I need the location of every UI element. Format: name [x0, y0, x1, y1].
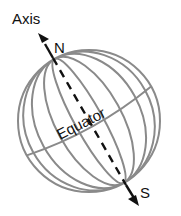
north-label: N — [54, 39, 65, 56]
axis-arrow-north-icon — [38, 33, 49, 43]
axis-arrow-south-icon — [128, 195, 139, 206]
axis-label: Axis — [12, 10, 40, 27]
south-label: S — [140, 184, 150, 201]
globe-diagram: Axis N S Equator — [0, 0, 181, 216]
